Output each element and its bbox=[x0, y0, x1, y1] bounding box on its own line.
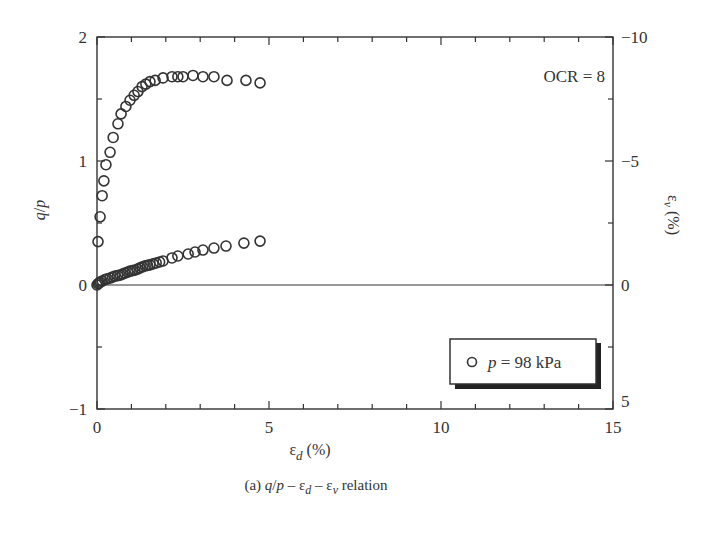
data-point bbox=[178, 72, 188, 82]
x-tick-label: 5 bbox=[265, 418, 274, 437]
data-point bbox=[241, 75, 251, 85]
data-point bbox=[198, 245, 208, 255]
data-point bbox=[239, 238, 249, 248]
data-point bbox=[99, 176, 109, 186]
data-point bbox=[209, 72, 219, 82]
data-point bbox=[222, 75, 232, 85]
y-axis-right-label: εv (%) bbox=[661, 195, 682, 235]
data-point bbox=[105, 147, 115, 157]
data-point bbox=[198, 72, 208, 82]
data-point bbox=[188, 70, 198, 80]
data-point bbox=[173, 251, 183, 261]
legend: p = 98 kPa bbox=[450, 339, 601, 389]
legend-label: p = 98 kPa bbox=[487, 353, 562, 372]
data-points bbox=[92, 70, 265, 290]
ocr-annotation: OCR = 8 bbox=[543, 67, 605, 86]
x-axis-label: εd (%) bbox=[289, 441, 330, 463]
data-point bbox=[108, 132, 118, 142]
y-right-tick-label: −10 bbox=[621, 28, 648, 47]
data-point bbox=[97, 191, 107, 201]
data-point bbox=[101, 160, 111, 170]
y-left-tick-label: 0 bbox=[79, 276, 88, 295]
data-point bbox=[95, 212, 105, 222]
chart: 051015210−1−10−505 εd (%) q/p εv (%) OCR… bbox=[0, 0, 725, 534]
y-left-tick-label: 2 bbox=[79, 28, 88, 47]
data-point bbox=[93, 237, 103, 247]
data-point bbox=[113, 119, 123, 129]
y-right-tick-label: 0 bbox=[621, 276, 630, 295]
x-tick-label: 10 bbox=[433, 418, 450, 437]
y-right-tick-label: −5 bbox=[621, 152, 639, 171]
data-point bbox=[255, 236, 265, 246]
data-point bbox=[255, 78, 265, 88]
y-left-tick-label: −1 bbox=[69, 400, 87, 419]
data-point bbox=[221, 241, 231, 251]
data-point bbox=[209, 243, 219, 253]
figure-caption: (a) q/p – εd – εv relation bbox=[244, 477, 388, 497]
y-axis-left-label: q/p bbox=[31, 200, 49, 220]
y-left-tick-label: 1 bbox=[79, 152, 88, 171]
x-tick-label: 0 bbox=[93, 418, 102, 437]
y-right-tick-label: 5 bbox=[621, 392, 630, 411]
x-tick-label: 15 bbox=[605, 418, 622, 437]
